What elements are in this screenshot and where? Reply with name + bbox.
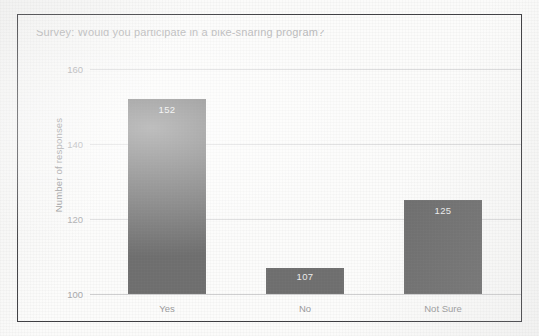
bar-no[interactable]: 107 No (266, 268, 344, 294)
y-axis-tick-100: 100 (67, 289, 83, 300)
x-axis-tick-yes: Yes (128, 303, 206, 314)
bar-yes[interactable]: 152 Yes (128, 99, 206, 294)
chart-title: Survey: Would you participate in a bike-… (36, 26, 324, 38)
y-axis-label: Number of responses (53, 118, 64, 213)
bar-value-yes: 152 (128, 104, 206, 115)
x-axis-tick-not-sure: Not Sure (404, 303, 482, 314)
y-axis-tick-120: 120 (67, 214, 83, 225)
x-axis-tick-no: No (266, 303, 344, 314)
gridline-100 (90, 294, 522, 295)
plot-area: 160 140 120 100 152 Yes 107 No 125 Not S… (90, 69, 522, 294)
bar-not-sure[interactable]: 125 Not Sure (404, 200, 482, 294)
bar-value-no: 107 (266, 271, 344, 282)
gridline-160 (90, 69, 522, 70)
bar-value-not-sure: 125 (404, 205, 482, 216)
y-axis-tick-140: 140 (67, 139, 83, 150)
chart-frame: Survey: Would you participate in a bike-… (17, 14, 522, 322)
y-axis-tick-160: 160 (67, 64, 83, 75)
